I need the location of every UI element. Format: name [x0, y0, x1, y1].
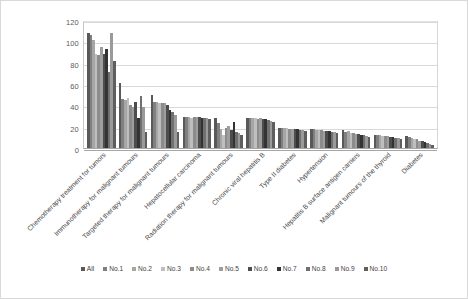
- bar: [208, 119, 211, 148]
- legend-item[interactable]: No.1: [103, 265, 123, 272]
- bar: [272, 122, 275, 148]
- y-axis-tick: 0: [75, 146, 79, 155]
- legend-swatch-icon: [364, 267, 368, 271]
- legend-swatch-icon: [81, 267, 85, 271]
- legend-swatch-icon: [190, 267, 194, 271]
- legend-swatch-icon: [132, 267, 136, 271]
- y-axis-tick: 80: [70, 60, 79, 69]
- legend-label: No.8: [312, 265, 326, 272]
- legend-item[interactable]: No.4: [190, 265, 210, 272]
- y-axis-tick: 60: [70, 82, 79, 91]
- y-axis-tick: 20: [70, 124, 79, 133]
- chart-frame: 020406080100120 Chemotherapy treatment f…: [0, 0, 468, 299]
- legend-label: No.6: [254, 265, 268, 272]
- legend-label: No.10: [370, 265, 388, 272]
- bar-group: [119, 22, 148, 148]
- bar-group: [374, 22, 403, 148]
- chart-legend: AllNo.1No.2No.3No.4No.5No.6No.7No.8No.9N…: [1, 265, 467, 272]
- y-axis-tick: 100: [66, 39, 79, 48]
- bar: [304, 131, 307, 148]
- bar: [145, 132, 148, 148]
- bar: [336, 133, 339, 148]
- bar-group: [310, 22, 339, 148]
- legend-swatch-icon: [248, 267, 252, 271]
- legend-item[interactable]: No.7: [277, 265, 297, 272]
- bar: [431, 145, 434, 148]
- legend-label: No.7: [283, 265, 297, 272]
- legend-label: All: [87, 265, 94, 272]
- legend-swatch-icon: [335, 267, 339, 271]
- legend-item[interactable]: No.8: [306, 265, 326, 272]
- legend-swatch-icon: [277, 267, 281, 271]
- legend-item[interactable]: No.2: [132, 265, 152, 272]
- legend-label: No.2: [138, 265, 152, 272]
- bar-group: [214, 22, 243, 148]
- legend-item[interactable]: No.9: [335, 265, 355, 272]
- legend-label: No.9: [341, 265, 355, 272]
- legend-swatch-icon: [161, 267, 165, 271]
- bar: [240, 135, 243, 148]
- legend-item[interactable]: No.5: [219, 265, 239, 272]
- bar: [177, 132, 180, 148]
- y-axis-tick: 120: [66, 18, 79, 27]
- bar-group: [183, 22, 212, 148]
- bar: [113, 61, 116, 148]
- bar-series-container: [84, 22, 437, 148]
- bar-group: [342, 22, 371, 148]
- legend-item[interactable]: No.6: [248, 265, 268, 272]
- bar-group: [246, 22, 275, 148]
- legend-swatch-icon: [103, 267, 107, 271]
- bar: [400, 139, 403, 148]
- legend-item[interactable]: No.10: [364, 265, 388, 272]
- legend-label: No.5: [225, 265, 239, 272]
- plot-area: 020406080100120: [83, 21, 438, 149]
- bar: [368, 137, 371, 148]
- bar-group: [151, 22, 180, 148]
- legend-label: No.3: [167, 265, 181, 272]
- legend-swatch-icon: [306, 267, 310, 271]
- legend-label: No.4: [196, 265, 210, 272]
- legend-item[interactable]: All: [81, 265, 94, 272]
- bar-group: [278, 22, 307, 148]
- legend-item[interactable]: No.3: [161, 265, 181, 272]
- y-axis-tick: 40: [70, 103, 79, 112]
- legend-label: No.1: [109, 265, 123, 272]
- bar-group: [405, 22, 434, 148]
- bar-group: [87, 22, 116, 148]
- legend-swatch-icon: [219, 267, 223, 271]
